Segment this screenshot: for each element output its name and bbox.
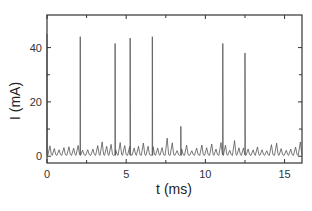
y-axis-ticks: 02040 — [30, 42, 302, 163]
trace-line — [47, 34, 302, 155]
plot-frame — [47, 15, 302, 163]
x-tick-label: 5 — [123, 168, 129, 180]
x-tick-label: 0 — [44, 168, 50, 180]
y-tick-label: 20 — [30, 96, 42, 108]
current-time-chart: 051015 02040 t (ms) I (mA) — [0, 0, 312, 211]
x-tick-label: 15 — [278, 168, 290, 180]
y-tick-label: 0 — [36, 150, 42, 162]
y-axis-label: I (mA) — [7, 82, 23, 120]
current-trace — [47, 34, 302, 155]
x-axis-label: t (ms) — [156, 181, 192, 197]
x-tick-label: 10 — [199, 168, 211, 180]
plot-border — [47, 15, 302, 163]
y-tick-label: 40 — [30, 42, 42, 54]
